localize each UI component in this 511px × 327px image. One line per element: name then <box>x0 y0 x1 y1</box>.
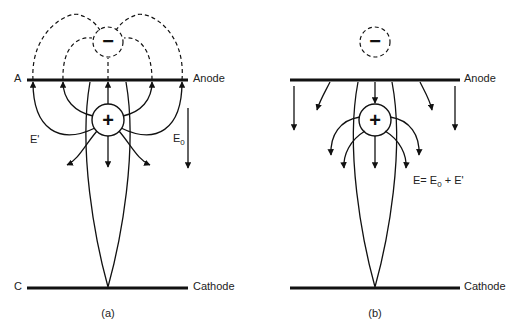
negative-charge-symbol: − <box>102 30 114 52</box>
panel-a: − A Anode + E' E0 C Cat <box>14 14 235 319</box>
anode-label: Anode <box>193 72 225 84</box>
cathode-label: Cathode <box>464 280 506 292</box>
anode-short-label: A <box>14 72 22 84</box>
anode-label: Anode <box>464 72 496 84</box>
negative-charge-symbol: − <box>369 30 381 52</box>
cathode-label: Cathode <box>193 280 235 292</box>
positive-charge-symbol: + <box>102 109 114 131</box>
resultant-field-label: E= E0 + E' <box>413 174 464 189</box>
positive-charge-symbol: + <box>369 109 381 131</box>
field-lines-divergent <box>67 131 150 167</box>
curved-field-line <box>420 82 432 110</box>
caption-b: (b) <box>368 307 381 319</box>
discharge-field-diagram: − A Anode + E' E0 C Cat <box>0 0 511 327</box>
space-charge-field-label: E' <box>30 133 39 145</box>
applied-field-label: E0 <box>173 132 185 147</box>
curved-field-line <box>317 82 330 110</box>
panel-b: − Anode + E= E0 + E' Cathode (b) <box>290 27 506 319</box>
cathode-short-label: C <box>14 280 22 292</box>
caption-a: (a) <box>101 307 114 319</box>
